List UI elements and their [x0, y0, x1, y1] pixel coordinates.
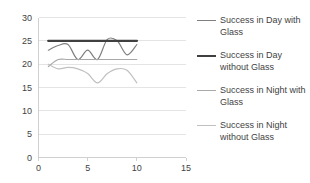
y-tick-label: 10 [12, 106, 32, 116]
series-line-3 [48, 64, 137, 83]
legend-line-swatch [197, 125, 216, 126]
legend-item[interactable]: Success in Day without Glass [197, 49, 310, 78]
series-line-2 [48, 59, 137, 67]
legend-line-swatch [197, 55, 216, 57]
y-tick-label: 15 [12, 83, 32, 93]
axis-lines [39, 18, 187, 161]
legend-item[interactable]: Success in Day with Glass [197, 14, 310, 43]
y-tick-label: 30 [12, 13, 32, 23]
legend-label: Success in Night with Glass [220, 84, 308, 108]
line-chart: 302520151050 051015 Success in Day with … [0, 0, 310, 183]
x-tick-label: 10 [127, 163, 147, 173]
chart-legend: Success in Day with GlassSuccess in Day … [197, 14, 310, 154]
y-tick-label: 5 [12, 129, 32, 139]
y-tick-label: 25 [12, 36, 32, 46]
x-tick-label: 5 [78, 163, 98, 173]
legend-line-swatch [197, 20, 216, 21]
x-tick-label: 15 [176, 163, 196, 173]
legend-label: Success in Night without Glass [220, 119, 308, 143]
y-tick-label: 20 [12, 59, 32, 69]
series-lines [48, 38, 137, 83]
legend-item[interactable]: Success in Night without Glass [197, 119, 310, 148]
legend-label: Success in Day with Glass [220, 14, 308, 38]
legend-item[interactable]: Success in Night with Glass [197, 84, 310, 113]
legend-label: Success in Day without Glass [220, 49, 308, 73]
x-tick-label: 0 [29, 163, 49, 173]
y-tick-label: 0 [12, 153, 32, 163]
legend-line-swatch [197, 90, 216, 91]
